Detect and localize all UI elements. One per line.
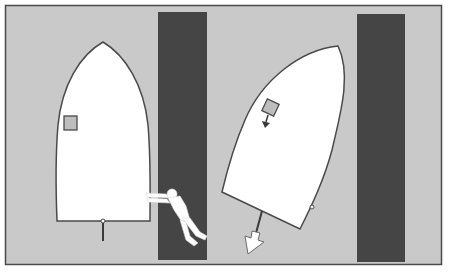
cabin-marker-left: [64, 116, 77, 130]
boat-docking-diagram: [0, 0, 449, 274]
stern-pivot-left: [101, 219, 105, 223]
dock-right: [357, 14, 405, 262]
stern-pivot-right: [310, 205, 314, 209]
